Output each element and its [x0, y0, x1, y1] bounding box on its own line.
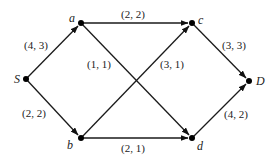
node-c [189, 20, 195, 26]
edge-label-c-D: (3, 3) [222, 39, 246, 52]
edge-label-a-c: (2, 2) [121, 8, 145, 21]
node-a [78, 20, 84, 26]
node-S [23, 76, 29, 82]
edge-label-b-c: (3, 1) [160, 58, 184, 71]
node-d [189, 135, 195, 141]
node-D [246, 78, 252, 84]
edge-label-d-D: (4, 2) [224, 108, 248, 121]
edge-a-d [81, 23, 189, 135]
edge-label-S-a: (4, 3) [24, 39, 48, 52]
edge-label-S-b: (2, 2) [22, 107, 46, 120]
node-label-b: b [67, 138, 73, 152]
flow-network-diagram: S a b c d D (4, 3) (2, 2) (2, 2) (1, 1) … [0, 0, 276, 162]
node-label-d: d [197, 139, 204, 153]
edge-label-a-d: (1, 1) [87, 58, 111, 71]
edge-S-a [26, 26, 78, 79]
edge-label-b-d: (2, 1) [121, 142, 145, 155]
node-label-D: D [255, 74, 265, 88]
node-label-S: S [14, 72, 20, 86]
node-b [78, 135, 84, 141]
node-label-c: c [198, 13, 204, 27]
node-label-a: a [69, 11, 75, 25]
edge-b-c [81, 26, 189, 138]
